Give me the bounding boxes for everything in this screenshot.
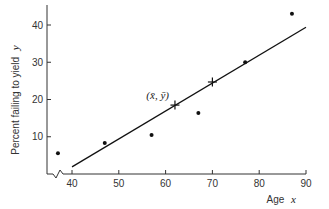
y-axis-title: Percent failing to yield y — [9, 45, 21, 155]
y-tick-label: 40 — [32, 20, 44, 31]
cross-marker — [170, 101, 179, 110]
y-axis-variable: y — [9, 45, 21, 51]
y-tick-label: 20 — [32, 94, 44, 105]
y-tick-label: 10 — [32, 131, 44, 142]
data-point — [243, 60, 247, 64]
data-point — [103, 141, 107, 145]
x-tick-label: 70 — [207, 178, 219, 189]
x-axis-line-with-break — [47, 170, 306, 178]
scatter-chart: 10203040 405060708090 (x̄, ȳ) Percent fa… — [0, 0, 329, 209]
x-axis-variable: x — [290, 193, 296, 205]
y-axis-title-text: Percent failing to yield — [10, 57, 21, 155]
x-tick-label: 50 — [113, 178, 125, 189]
annotations: (x̄, ȳ) — [146, 89, 169, 102]
y-axis: 10203040 — [32, 5, 51, 174]
x-tick-label: 60 — [160, 178, 172, 189]
data-point — [150, 133, 154, 137]
x-tick-label: 80 — [254, 178, 266, 189]
x-axis-title-text: Age — [267, 194, 285, 205]
x-axis-title: Age x — [267, 193, 297, 205]
fitted-line — [72, 27, 306, 167]
x-axis: 405060708090 — [47, 170, 312, 189]
data-points — [56, 12, 294, 155]
data-point — [56, 151, 60, 155]
regression-line — [72, 27, 306, 167]
data-point — [196, 111, 200, 115]
x-tick-label: 40 — [66, 178, 78, 189]
y-tick-label: 30 — [32, 57, 44, 68]
x-tick-label: 90 — [300, 178, 312, 189]
data-point — [290, 12, 294, 16]
mean-point-annotation: (x̄, ȳ) — [146, 89, 169, 102]
